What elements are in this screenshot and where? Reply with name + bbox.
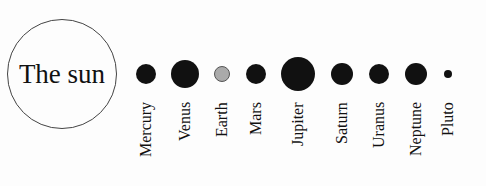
planet-venus: [171, 60, 199, 88]
planet-neptune: [405, 63, 427, 85]
planet-label-mars: Mars: [248, 102, 264, 135]
planet-pluto: [444, 70, 452, 78]
planet-mercury: [136, 64, 156, 84]
planet-label-uranus: Uranus: [371, 102, 387, 148]
sun-circle: The sun: [7, 19, 117, 129]
planet-saturn: [331, 63, 353, 85]
planet-label-venus: Venus: [177, 102, 193, 141]
planet-uranus: [369, 64, 389, 84]
planet-label-jupiter: Jupiter: [290, 102, 306, 146]
planet-label-mercury: Mercury: [138, 102, 154, 157]
planet-jupiter: [281, 57, 315, 91]
planet-label-saturn: Saturn: [334, 102, 350, 144]
planet-mars: [246, 64, 266, 84]
sun-label: The sun: [19, 59, 105, 90]
planet-earth: [214, 66, 230, 82]
planet-label-earth: Earth: [214, 102, 230, 137]
planet-label-pluto: Pluto: [440, 102, 456, 136]
planet-label-neptune: Neptune: [408, 102, 424, 156]
